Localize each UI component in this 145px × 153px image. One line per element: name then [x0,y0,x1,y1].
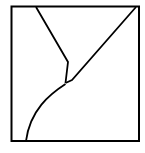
diagram-canvas [0,0,145,153]
